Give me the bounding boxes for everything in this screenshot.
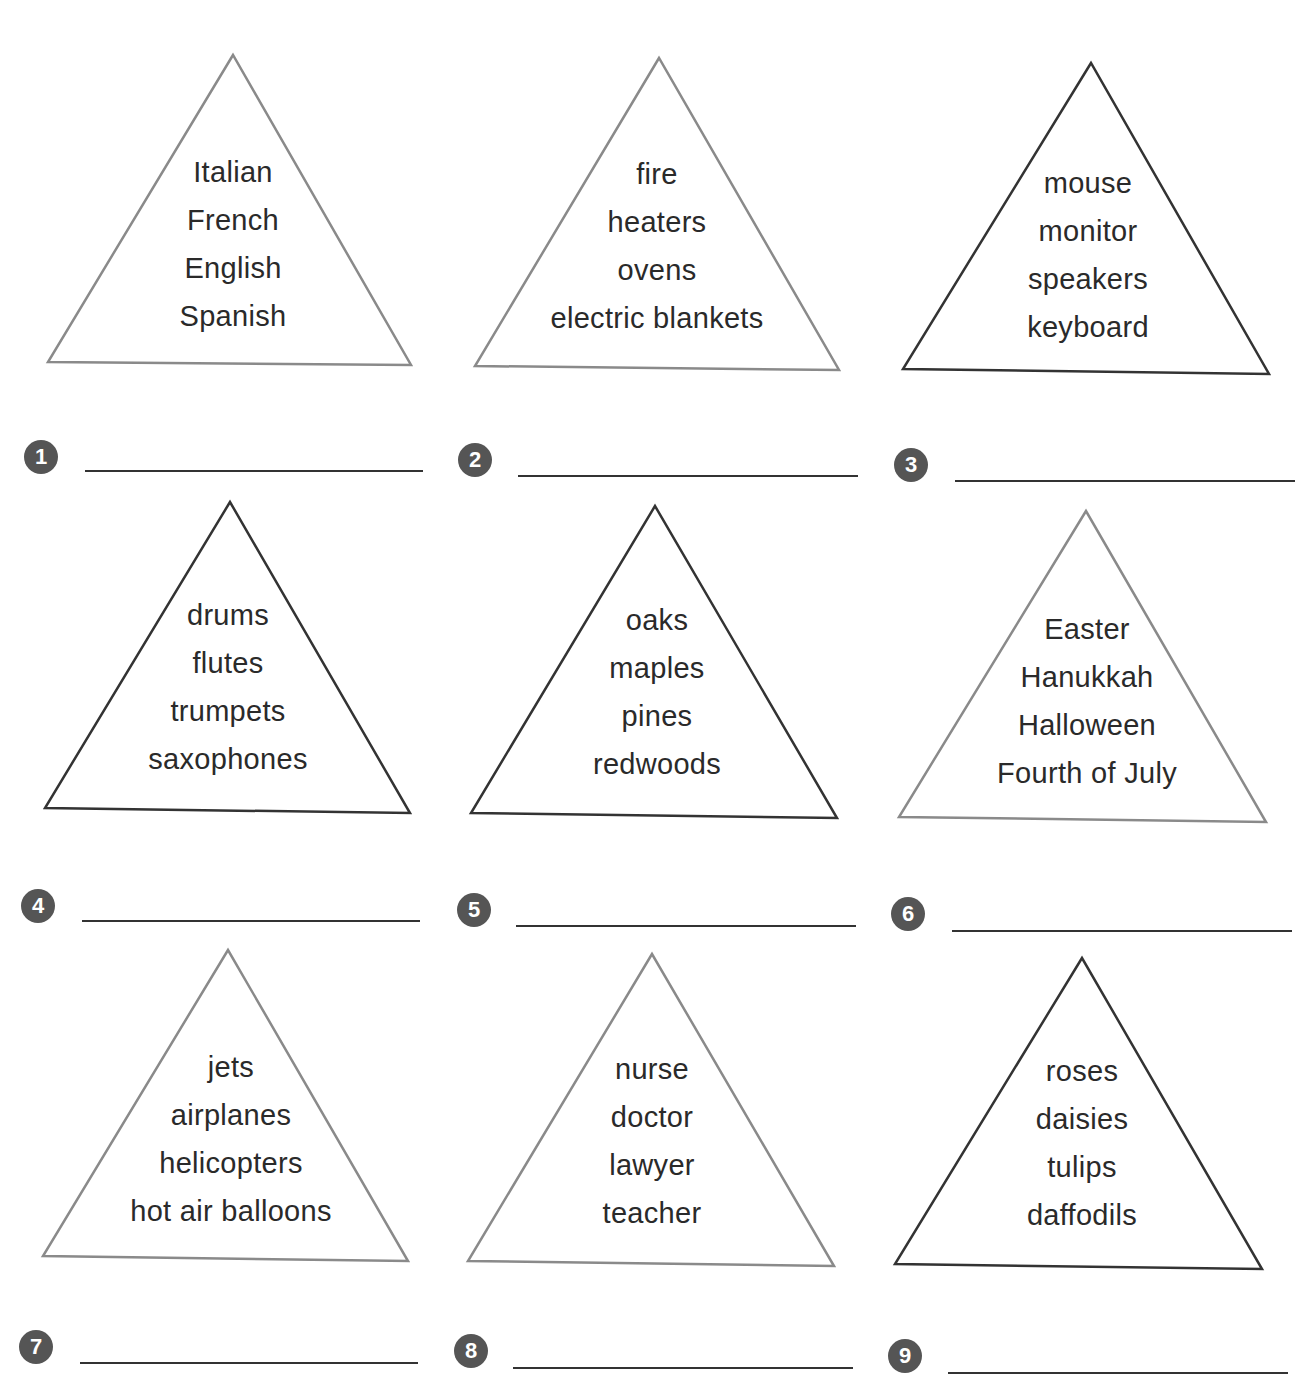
word: Spanish	[133, 292, 333, 340]
word: monitor	[988, 207, 1188, 255]
word: hot air balloons	[91, 1187, 371, 1235]
word: Italian	[133, 148, 333, 196]
word: jets	[91, 1043, 371, 1091]
answer-line[interactable]	[518, 475, 858, 477]
word-list: fire heaters ovens electric blankets	[517, 150, 797, 342]
word: Easter	[972, 605, 1202, 653]
answer-line[interactable]	[952, 930, 1292, 932]
word: redwoods	[557, 740, 757, 788]
word: lawyer	[552, 1141, 752, 1189]
answer-line[interactable]	[82, 920, 420, 922]
word: flutes	[128, 639, 328, 687]
word-list: nurse doctor lawyer teacher	[552, 1045, 752, 1237]
word: mouse	[988, 159, 1188, 207]
word: daffodils	[982, 1191, 1182, 1239]
word-list: Italian French English Spanish	[133, 148, 333, 340]
word: Halloween	[972, 701, 1202, 749]
question-number-badge: 8	[454, 1334, 488, 1368]
question-number-badge: 2	[458, 443, 492, 477]
question-number-badge: 6	[891, 897, 925, 931]
answer-line[interactable]	[516, 925, 856, 927]
answer-line[interactable]	[80, 1362, 418, 1364]
word: keyboard	[988, 303, 1188, 351]
word: saxophones	[128, 735, 328, 783]
word: oaks	[557, 596, 757, 644]
question-number-badge: 3	[894, 448, 928, 482]
word: trumpets	[128, 687, 328, 735]
word: drums	[128, 591, 328, 639]
word: fire	[517, 150, 797, 198]
answer-line[interactable]	[948, 1372, 1288, 1374]
word-list: mouse monitor speakers keyboard	[988, 159, 1188, 351]
word: airplanes	[91, 1091, 371, 1139]
word: French	[133, 196, 333, 244]
word: doctor	[552, 1093, 752, 1141]
word: teacher	[552, 1189, 752, 1237]
word: speakers	[988, 255, 1188, 303]
word: electric blankets	[517, 294, 797, 342]
word-list: drums flutes trumpets saxophones	[128, 591, 328, 783]
word: nurse	[552, 1045, 752, 1093]
word: English	[133, 244, 333, 292]
word: roses	[982, 1047, 1182, 1095]
answer-line[interactable]	[513, 1367, 853, 1369]
word: pines	[557, 692, 757, 740]
question-number-badge: 1	[24, 440, 58, 474]
word-list: roses daisies tulips daffodils	[982, 1047, 1182, 1239]
word: Hanukkah	[972, 653, 1202, 701]
word: helicopters	[91, 1139, 371, 1187]
question-number-badge: 4	[21, 889, 55, 923]
question-number-badge: 5	[457, 893, 491, 927]
word: tulips	[982, 1143, 1182, 1191]
word: maples	[557, 644, 757, 692]
question-number-badge: 7	[19, 1330, 53, 1364]
answer-line[interactable]	[85, 470, 423, 472]
word: Fourth of July	[972, 749, 1202, 797]
answer-line[interactable]	[955, 480, 1295, 482]
question-number-badge: 9	[888, 1339, 922, 1373]
word: heaters	[517, 198, 797, 246]
word-list: oaks maples pines redwoods	[557, 596, 757, 788]
word: daisies	[982, 1095, 1182, 1143]
word: ovens	[517, 246, 797, 294]
word-list: jets airplanes helicopters hot air ballo…	[91, 1043, 371, 1235]
word-list: Easter Hanukkah Halloween Fourth of July	[972, 605, 1202, 797]
